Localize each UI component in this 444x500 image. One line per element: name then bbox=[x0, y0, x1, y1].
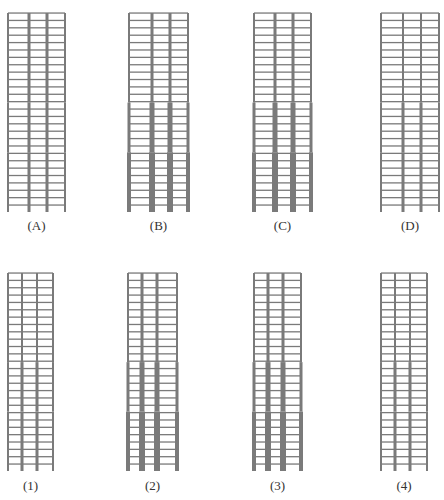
beam bbox=[254, 361, 301, 362]
beam bbox=[8, 287, 53, 288]
exterior-column bbox=[176, 273, 178, 362]
beam bbox=[129, 27, 188, 28]
beam bbox=[254, 272, 301, 273]
interior-column bbox=[46, 152, 49, 212]
beam bbox=[8, 309, 53, 310]
beam bbox=[129, 12, 188, 13]
interior-column bbox=[28, 103, 31, 153]
beam bbox=[381, 153, 439, 154]
beam bbox=[128, 449, 177, 450]
beam bbox=[129, 20, 188, 21]
exterior-column bbox=[426, 273, 428, 362]
exterior-column bbox=[128, 13, 130, 103]
interior-column bbox=[168, 103, 173, 153]
beam bbox=[128, 397, 177, 398]
exterior-column bbox=[438, 152, 440, 212]
frame-label-3: (3) bbox=[270, 478, 285, 494]
beam bbox=[8, 449, 53, 450]
exterior-column bbox=[7, 362, 9, 412]
beam bbox=[254, 316, 301, 317]
interior-column bbox=[265, 412, 271, 471]
beam bbox=[254, 287, 301, 288]
interior-column bbox=[394, 362, 397, 412]
beam bbox=[8, 316, 53, 317]
frame-label-B: (B) bbox=[150, 218, 167, 234]
interior-column bbox=[291, 103, 296, 153]
exterior-column bbox=[253, 273, 255, 362]
interior-column bbox=[266, 362, 271, 412]
interior-column bbox=[274, 13, 277, 103]
beam bbox=[381, 167, 439, 168]
beam bbox=[128, 339, 177, 340]
frame-label-A: (A) bbox=[27, 218, 45, 234]
interior-column bbox=[280, 412, 286, 471]
beam bbox=[381, 331, 427, 332]
interior-column bbox=[409, 362, 412, 412]
beam bbox=[254, 353, 301, 354]
interior-column bbox=[394, 412, 397, 471]
interior-column bbox=[156, 273, 159, 362]
exterior-column bbox=[64, 13, 66, 103]
interior-column bbox=[402, 152, 405, 212]
exterior-column bbox=[187, 103, 190, 153]
exterior-column bbox=[253, 362, 256, 412]
beam bbox=[381, 49, 439, 50]
beam bbox=[381, 20, 439, 21]
beam bbox=[381, 71, 439, 72]
beam bbox=[8, 331, 53, 332]
beam bbox=[254, 397, 301, 398]
beam bbox=[129, 57, 188, 58]
exterior-column bbox=[126, 412, 130, 471]
beam bbox=[129, 108, 188, 109]
beam bbox=[8, 294, 53, 295]
beam bbox=[381, 101, 439, 102]
beam bbox=[254, 42, 311, 43]
exterior-column bbox=[310, 103, 313, 153]
beam bbox=[129, 138, 188, 139]
beam bbox=[381, 64, 439, 65]
beam bbox=[8, 86, 65, 87]
interior-column bbox=[141, 273, 144, 362]
beam bbox=[8, 182, 65, 183]
exterior-column bbox=[300, 362, 303, 412]
beam bbox=[128, 427, 177, 428]
beam bbox=[381, 294, 427, 295]
interior-column bbox=[420, 13, 422, 103]
beam bbox=[128, 287, 177, 288]
frame-label-4: (4) bbox=[396, 478, 411, 494]
interior-column bbox=[267, 273, 270, 362]
beam bbox=[254, 463, 301, 464]
interior-column bbox=[149, 152, 155, 212]
exterior-column bbox=[309, 152, 313, 212]
beam bbox=[8, 64, 65, 65]
beam bbox=[8, 131, 65, 132]
beam bbox=[254, 101, 311, 102]
interior-column bbox=[409, 412, 412, 471]
beam bbox=[128, 324, 177, 325]
exterior-column bbox=[64, 152, 66, 212]
beam bbox=[8, 57, 65, 58]
interior-column bbox=[150, 103, 155, 153]
beam bbox=[128, 346, 177, 347]
beam bbox=[129, 42, 188, 43]
beam bbox=[8, 12, 65, 13]
frame-label-1: (1) bbox=[23, 478, 38, 494]
beam bbox=[381, 324, 427, 325]
beam bbox=[8, 339, 53, 340]
frame-label-D: (D) bbox=[401, 218, 419, 234]
beam bbox=[128, 361, 177, 362]
beam bbox=[129, 86, 188, 87]
beam bbox=[381, 353, 427, 354]
beam bbox=[254, 383, 301, 384]
beam bbox=[254, 190, 311, 191]
beam bbox=[129, 35, 188, 36]
beam bbox=[254, 280, 301, 281]
beam bbox=[254, 153, 311, 154]
beam bbox=[8, 145, 65, 146]
beam bbox=[254, 49, 311, 50]
beam bbox=[128, 368, 177, 369]
beam bbox=[128, 353, 177, 354]
beam bbox=[128, 463, 177, 464]
beam bbox=[129, 101, 188, 102]
interior-column bbox=[272, 152, 278, 212]
